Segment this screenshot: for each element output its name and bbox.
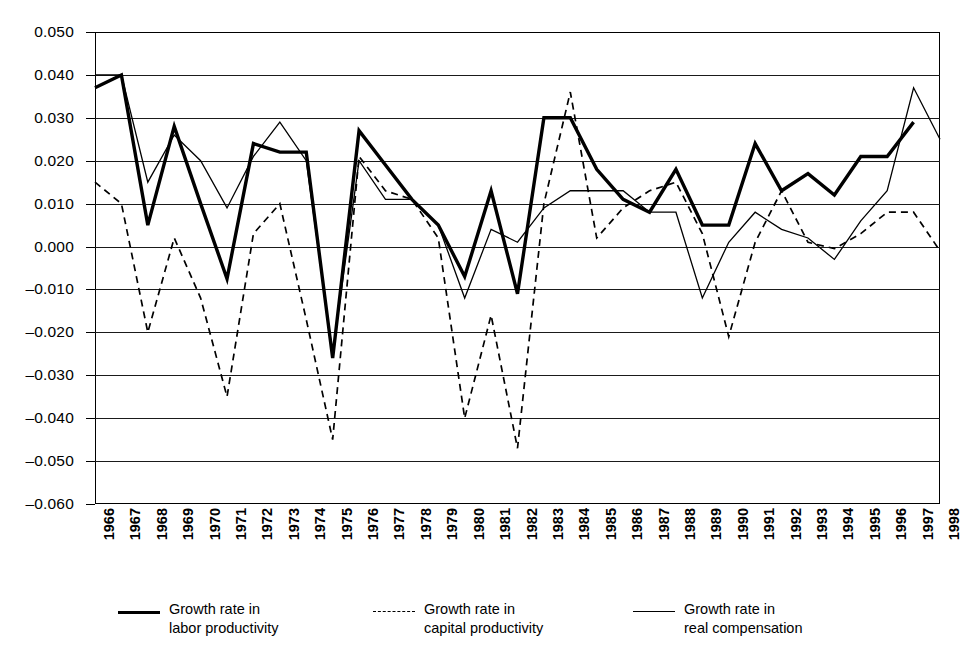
x-tick-label: 1975 <box>339 508 355 540</box>
y-tick-mark <box>86 375 95 376</box>
legend-line-icon <box>373 604 415 618</box>
y-tick-label: 0.040 <box>34 66 74 84</box>
x-tick-label: 1981 <box>497 508 513 540</box>
x-tick-label: 1983 <box>550 508 566 540</box>
x-tick-label: 1973 <box>286 508 302 540</box>
legend-item: Growth rate inreal compensation <box>633 600 903 638</box>
y-tick-label: –0.020 <box>25 323 74 341</box>
x-tick-label: 1982 <box>524 508 540 540</box>
y-tick-mark <box>86 204 95 205</box>
x-tick-label: 1996 <box>893 508 909 540</box>
y-tick-mark <box>86 118 95 119</box>
x-tick-label: 1978 <box>418 508 434 540</box>
growth-rate-line-chart: 0.0500.0400.0300.0200.0100.000–0.010–0.0… <box>0 0 967 666</box>
series-line <box>95 75 914 358</box>
x-tick-label: 1968 <box>154 508 170 540</box>
x-tick-label: 1977 <box>391 508 407 540</box>
x-tick-label: 1971 <box>233 508 249 540</box>
x-tick-label: 1994 <box>840 508 856 540</box>
x-tick-label: 1989 <box>708 508 724 540</box>
x-tick-label: 1995 <box>867 508 883 540</box>
plot-area <box>95 32 940 504</box>
legend-label: Growth rate inreal compensation <box>684 600 803 638</box>
y-tick-mark <box>86 332 95 333</box>
legend-line-icon <box>118 604 160 618</box>
y-tick-mark <box>86 75 95 76</box>
x-tick-label: 1976 <box>365 508 381 540</box>
y-tick-label: –0.010 <box>25 280 74 298</box>
x-tick-label: 1993 <box>814 508 830 540</box>
legend-label: Growth rate incapital productivity <box>424 600 543 638</box>
y-tick-label: –0.040 <box>25 409 74 427</box>
y-tick-label: –0.030 <box>25 366 74 384</box>
legend-label-line2: labor productivity <box>169 619 279 638</box>
x-tick-label: 1987 <box>656 508 672 540</box>
chart-legend: Growth rate inlabor productivityGrowth r… <box>118 600 918 660</box>
x-axis: 1966196719681969197019711972197319741975… <box>95 508 940 588</box>
legend-label-line1: Growth rate in <box>424 600 543 619</box>
x-tick-label: 1991 <box>761 508 777 540</box>
y-tick-mark <box>86 289 95 290</box>
y-tick-mark <box>86 504 95 505</box>
legend-item: Growth rate incapital productivity <box>373 600 633 638</box>
x-tick-label: 1998 <box>946 508 962 540</box>
y-tick-mark <box>86 461 95 462</box>
y-tick-label: –0.060 <box>25 495 74 513</box>
series-line <box>95 92 940 448</box>
x-tick-label: 1974 <box>312 508 328 540</box>
x-tick-label: 1990 <box>735 508 751 540</box>
y-tick-label: 0.000 <box>34 238 74 256</box>
x-tick-label: 1970 <box>207 508 223 540</box>
y-tick-label: 0.030 <box>34 109 74 127</box>
legend-label-line1: Growth rate in <box>169 600 279 619</box>
x-tick-label: 1984 <box>576 508 592 540</box>
x-tick-label: 1979 <box>444 508 460 540</box>
series-lines <box>95 32 940 504</box>
x-tick-label: 1966 <box>101 508 117 540</box>
x-tick-label: 1969 <box>180 508 196 540</box>
x-tick-label: 1967 <box>127 508 143 540</box>
legend-label-line2: capital productivity <box>424 619 543 638</box>
y-tick-label: –0.050 <box>25 452 74 470</box>
y-tick-mark <box>86 247 95 248</box>
x-tick-label: 1997 <box>920 508 936 540</box>
x-tick-label: 1992 <box>788 508 804 540</box>
x-tick-label: 1980 <box>471 508 487 540</box>
y-tick-mark <box>86 32 95 33</box>
legend-label: Growth rate inlabor productivity <box>169 600 279 638</box>
x-tick-label: 1972 <box>259 508 275 540</box>
legend-label-line2: real compensation <box>684 619 803 638</box>
legend-label-line1: Growth rate in <box>684 600 803 619</box>
x-tick-label: 1986 <box>629 508 645 540</box>
y-tick-label: 0.050 <box>34 23 74 41</box>
y-tick-mark <box>86 418 95 419</box>
y-tick-mark <box>86 161 95 162</box>
series-line <box>95 75 940 354</box>
legend-item: Growth rate inlabor productivity <box>118 600 373 638</box>
y-tick-label: 0.010 <box>34 195 74 213</box>
legend-line-icon <box>633 604 675 618</box>
y-axis: 0.0500.0400.0300.0200.0100.000–0.010–0.0… <box>0 0 88 520</box>
x-tick-label: 1988 <box>682 508 698 540</box>
x-tick-label: 1985 <box>603 508 619 540</box>
y-tick-label: 0.020 <box>34 152 74 170</box>
